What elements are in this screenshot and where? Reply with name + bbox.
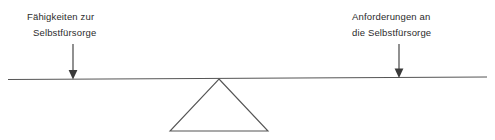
label-right-demands: Anforderungen an die Selbstfürsorge: [352, 9, 431, 41]
label-right-line1: Anforderungen an: [352, 11, 430, 22]
label-left-capabilities: Fähigkeiten zur Selbstfürsorge: [27, 9, 96, 41]
label-left-line1: Fähigkeiten zur: [27, 11, 94, 22]
balance-beam-line: [8, 77, 487, 80]
triangle-fulcrum: [170, 79, 268, 131]
seesaw-diagram: Fähigkeiten zur Selbstfürsorge Anforderu…: [0, 0, 495, 140]
label-left-line2: Selbstfürsorge: [33, 25, 96, 41]
arrow-down-icon-left: [69, 44, 78, 80]
arrow-down-icon-right: [395, 44, 404, 78]
label-right-line2: die Selbstfürsorge: [352, 25, 431, 41]
